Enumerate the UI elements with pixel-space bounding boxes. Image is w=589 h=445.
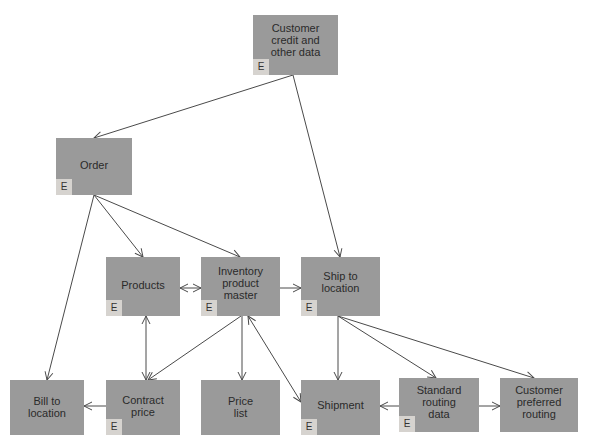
node-label: Products <box>115 279 170 291</box>
edge-ship-to-to-customer-preferred <box>338 316 534 378</box>
node-shipment[interactable]: Shipment E <box>301 380 380 435</box>
node-inventory-product-master[interactable]: Inventory product master E <box>201 257 280 316</box>
node-price-list[interactable]: Price list <box>201 380 280 435</box>
entity-badge: E <box>253 59 269 75</box>
node-label: Contract price <box>116 394 170 418</box>
node-bill-to-location[interactable]: Bill to location <box>10 380 84 435</box>
edge-order-to-bill-to <box>47 195 94 380</box>
node-label: Price list <box>222 395 259 419</box>
node-order[interactable]: Order E <box>56 138 132 195</box>
edge-customer-credit-to-order <box>94 75 293 138</box>
edge-ship-to-to-standard-routing <box>338 316 436 378</box>
entity-diagram: Customer credit and other data E Order E… <box>0 0 589 445</box>
entity-badge: E <box>56 179 72 195</box>
node-label: Order <box>74 159 114 171</box>
node-ship-to-location[interactable]: Ship to location E <box>301 257 380 316</box>
node-label: Inventory product master <box>212 265 269 301</box>
node-label: Standard routing data <box>411 384 468 420</box>
node-label: Customer credit and other data <box>265 22 327 58</box>
node-customer-credit[interactable]: Customer credit and other data E <box>253 15 338 75</box>
entity-badge: E <box>106 300 122 316</box>
node-standard-routing-data[interactable]: Standard routing data E <box>399 378 479 432</box>
node-customer-preferred-routing[interactable]: Customer preferred routing <box>500 378 578 432</box>
node-label: Shipment <box>311 399 369 411</box>
node-label: Customer preferred routing <box>509 384 569 420</box>
node-products[interactable]: Products E <box>106 257 180 316</box>
entity-badge: E <box>106 419 122 435</box>
entity-badge: E <box>301 419 317 435</box>
edge-order-to-products <box>94 195 143 257</box>
node-label: Ship to location <box>316 270 366 294</box>
edge-order-to-inventory <box>94 195 240 257</box>
entity-badge: E <box>399 416 415 432</box>
entity-badge: E <box>301 300 317 316</box>
entity-badge: E <box>201 300 217 316</box>
node-contract-price[interactable]: Contract price E <box>106 380 180 435</box>
edge-inventory-to-contract-price <box>148 316 241 380</box>
edge-customer-credit-to-ship-to <box>293 75 340 257</box>
node-label: Bill to location <box>22 395 72 419</box>
